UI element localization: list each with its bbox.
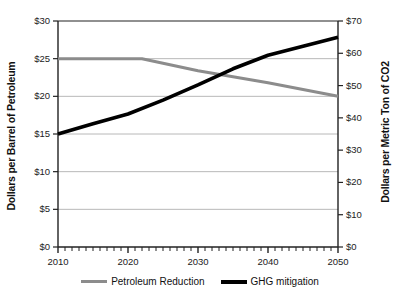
x-tick-label: 2020 <box>108 256 148 267</box>
y-right-tick-label: $60 <box>346 47 380 58</box>
series-line-petroleum-reduction <box>58 59 338 97</box>
legend-label: Petroleum Reduction <box>111 276 204 287</box>
legend-entry[interactable]: Petroleum Reduction <box>81 276 204 287</box>
y-left-tick-label: $30 <box>16 15 50 26</box>
y-left-tick-label: $15 <box>16 128 50 139</box>
legend-swatch-icon <box>81 280 107 283</box>
y-right-tick-label: $20 <box>346 176 380 187</box>
right-axis-title: Dollars per Metric Ton of CO2 <box>379 57 391 207</box>
x-tick-label: 2010 <box>38 256 78 267</box>
chart-legend: Petroleum ReductionGHG mitigation <box>0 276 400 287</box>
x-tick-label: 2040 <box>248 256 288 267</box>
y-right-tick-label: $70 <box>346 15 380 26</box>
x-tick-label: 2050 <box>318 256 358 267</box>
legend-swatch-icon <box>221 280 247 284</box>
y-left-tick-label: $20 <box>16 90 50 101</box>
series-line-ghg-mitigation <box>58 37 338 134</box>
y-right-tick-label: $30 <box>346 144 380 155</box>
y-left-tick-label: $10 <box>16 166 50 177</box>
y-left-tick-label: $25 <box>16 53 50 64</box>
x-minor-ticks <box>58 247 338 253</box>
y-right-tick-label: $50 <box>346 80 380 91</box>
y-right-tick-label: $10 <box>346 209 380 220</box>
y-right-tick-label: $40 <box>346 112 380 123</box>
legend-label: GHG mitigation <box>251 276 319 287</box>
chart-container: Dollars per Barrel of Petroleum Dollars … <box>0 0 400 302</box>
y-left-tick-label: $5 <box>16 203 50 214</box>
y-left-tick-label: $0 <box>16 241 50 252</box>
x-tick-label: 2030 <box>178 256 218 267</box>
y-right-tick-label: $0 <box>346 241 380 252</box>
legend-entry[interactable]: GHG mitigation <box>221 276 319 287</box>
gridlines <box>58 59 338 210</box>
